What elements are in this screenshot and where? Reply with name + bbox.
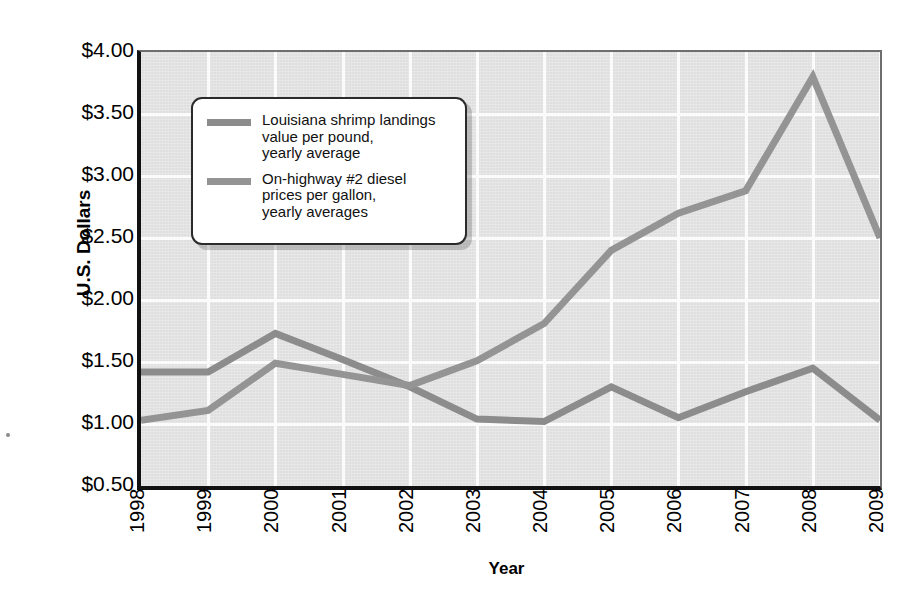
y-axis-tick-label: $1.00 xyxy=(56,411,134,432)
x-axis-tick-label-text: 2006 xyxy=(664,463,684,533)
y-axis-tick-label: $3.00 xyxy=(56,163,134,184)
legend-swatch xyxy=(207,119,251,126)
y-axis-tick-label: $2.50 xyxy=(56,225,134,246)
x-axis-tick-label: 2004 xyxy=(530,463,550,533)
x-axis-tick-label: 2005 xyxy=(597,463,617,533)
legend-entry-shrimp: Louisiana shrimp landings value per poun… xyxy=(207,112,455,162)
x-axis-tick-label-text: 2003 xyxy=(463,463,483,533)
x-axis-tick-label: 2002 xyxy=(396,463,416,533)
x-axis-tick-label-text: 2001 xyxy=(329,463,349,533)
x-axis-tick-label: 2001 xyxy=(329,463,349,533)
x-axis-tick-label-text: 1999 xyxy=(194,463,214,533)
x-axis-tick-label-text: 2005 xyxy=(597,463,617,533)
chart-container: U.S. Dollars $4.00$3.50$3.00$2.50$2.00$1… xyxy=(0,0,910,591)
legend: Louisiana shrimp landings value per poun… xyxy=(191,97,467,245)
x-axis-tick-label: 1999 xyxy=(194,463,214,533)
y-axis-tick-label: $0.50 xyxy=(56,473,134,494)
x-axis-tick-label: 2007 xyxy=(732,463,752,533)
x-axis-tick-label: 2003 xyxy=(463,463,483,533)
x-axis-title: Year xyxy=(137,559,876,579)
x-axis-tick-label: 2000 xyxy=(261,463,281,533)
x-axis-tick-label: 1998 xyxy=(127,463,147,533)
x-axis-tick-label-text: 2002 xyxy=(396,463,416,533)
x-axis-tick-label-text: 2000 xyxy=(261,463,281,533)
scan-speck xyxy=(6,433,10,437)
x-axis-tick-label: 2008 xyxy=(799,463,819,533)
x-axis-tick-label-text: 2004 xyxy=(530,463,550,533)
x-axis-tick-label-text: 2007 xyxy=(732,463,752,533)
y-axis-tick-labels: $4.00$3.50$3.00$2.50$2.00$1.50$1.00$0.50 xyxy=(50,0,134,591)
legend-entry-diesel: On-highway #2 diesel prices per gallon, … xyxy=(207,171,455,221)
legend-label: On-highway #2 diesel prices per gallon, … xyxy=(262,171,406,221)
y-axis-tick-label: $1.50 xyxy=(56,349,134,370)
x-axis-tick-label: 2009 xyxy=(866,463,886,533)
y-axis-tick-label: $3.50 xyxy=(56,101,134,122)
legend-label: Louisiana shrimp landings value per poun… xyxy=(262,112,435,162)
x-axis-tick-labels: 1998199920002001200220032004200520062007… xyxy=(137,488,876,558)
x-axis-tick-label: 2006 xyxy=(664,463,684,533)
x-axis-tick-label-text: 1998 xyxy=(127,463,147,533)
y-axis-tick-label: $2.00 xyxy=(56,287,134,308)
x-axis-tick-label-text: 2009 xyxy=(866,463,886,533)
x-axis-tick-label-text: 2008 xyxy=(799,463,819,533)
y-axis-tick-label: $4.00 xyxy=(56,39,134,60)
legend-swatch xyxy=(207,178,251,185)
